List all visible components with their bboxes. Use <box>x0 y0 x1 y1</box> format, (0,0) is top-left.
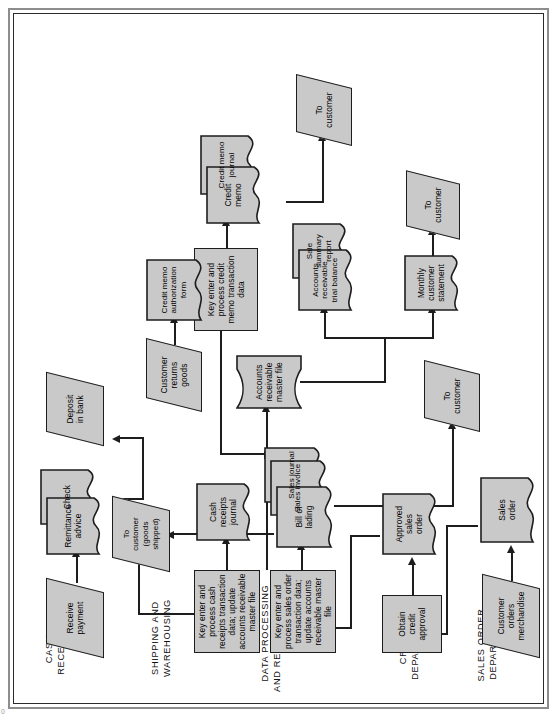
node-deposit-in-bank[interactable]: Deposit in bank <box>46 379 104 439</box>
node-obtain-credit-approval[interactable]: Obtain credit approval <box>382 595 442 653</box>
node-to-customer-goods-shipped[interactable]: To customer (goods shipped) <box>112 503 170 565</box>
node-label: Key enter and process credit memo transa… <box>206 255 246 323</box>
node-label: Key enter and process cash receipts tran… <box>197 574 257 650</box>
connector-line <box>446 525 448 635</box>
node-bill-of-lading[interactable]: Bill of lading <box>276 486 340 548</box>
node-to-customer-statement[interactable]: To customer <box>406 177 460 233</box>
node-label: Deposit in bank <box>63 392 87 425</box>
node-sales-order[interactable]: Sales order <box>480 477 542 543</box>
node-label: To customer (goods shipped) <box>120 515 162 553</box>
connector-line <box>220 453 268 455</box>
node-label: Monthly customer statement <box>416 255 454 311</box>
connector-arrow <box>112 436 120 444</box>
connector-line <box>446 525 478 527</box>
node-label: Credit memo <box>223 166 251 224</box>
connector-line <box>76 555 78 583</box>
page-mark: 0 <box>1 708 5 715</box>
connector-line <box>452 427 454 507</box>
connector-line <box>350 535 380 537</box>
connector-line <box>322 139 324 203</box>
chart-rotation-wrapper: SALES ORDER DEPARTMENT CREDIT DEPARTMENT… <box>14 14 543 703</box>
node-label: Obtain credit approval <box>397 608 427 641</box>
node-to-customer-credit-memo[interactable]: To customer <box>296 81 352 139</box>
connector-arrow <box>507 545 515 553</box>
connector-line <box>412 563 414 595</box>
node-credit-memo[interactable]: Credit memo <box>206 166 268 224</box>
node-label: Customer returns goods <box>157 354 191 395</box>
connector-line <box>174 321 176 345</box>
node-label: Accounts receivable master file <box>254 355 284 409</box>
node-to-customer-invoice[interactable]: To customer <box>424 367 480 425</box>
node-approved-sales-order[interactable]: Approved sales order <box>382 493 444 555</box>
node-label: Accounts receivable trial balance <box>311 249 348 311</box>
node-label: Receive payment <box>63 600 87 637</box>
node-label: Remittance advice <box>63 497 91 555</box>
node-label: Cash receipts journal <box>208 483 246 541</box>
connector-line <box>120 437 144 439</box>
node-label: Bill of lading <box>294 486 322 548</box>
node-key-enter-cash-receipts[interactable]: Key enter and process cash receipts tran… <box>194 570 260 653</box>
connector-line <box>324 337 434 339</box>
connector-line <box>226 542 228 570</box>
connector-line <box>511 551 513 581</box>
connector-line <box>301 548 303 570</box>
node-label: Approved sales order <box>394 493 432 555</box>
connector-line <box>432 311 434 339</box>
connector-line <box>336 627 352 629</box>
flowchart-page: 0 SALES ORDER DEPARTMENT CREDIT DEPARTME… <box>0 0 557 717</box>
connector-line <box>300 381 386 383</box>
node-receive-payment[interactable]: Receive payment <box>46 585 104 651</box>
node-key-enter-sales-order[interactable]: Key enter and process sales order transa… <box>270 570 336 653</box>
node-credit-memo-authorization-form[interactable]: Credit memo authorization form <box>146 259 210 321</box>
node-label: Customer orders merchandise <box>494 589 528 642</box>
node-label: To customer <box>312 90 336 129</box>
node-customer-orders-merchandise[interactable]: Customer orders merchandise <box>482 581 540 651</box>
node-accounts-receivable-master-file[interactable]: Accounts receivable master file <box>236 355 302 409</box>
node-remittance-advice[interactable]: Remittance advice <box>46 497 108 555</box>
connector-line <box>142 438 144 500</box>
node-label: To customer <box>440 376 464 415</box>
connector-line <box>286 201 324 203</box>
node-label: Credit memo authorization form <box>160 259 197 321</box>
node-label: To customer <box>421 185 445 224</box>
connector-line <box>324 311 326 339</box>
flowchart-canvas: SALES ORDER DEPARTMENT CREDIT DEPARTMENT… <box>14 14 543 703</box>
node-customer-returns-goods[interactable]: Customer returns goods <box>146 345 202 405</box>
node-cash-receipts-journal[interactable]: Cash receipts journal <box>196 483 258 541</box>
column-heading-shipping: SHIPPING AND WAREHOUSING <box>150 579 173 697</box>
connector-arrow <box>408 557 416 565</box>
connector-line <box>384 337 386 383</box>
node-label: Key enter and process sales order transa… <box>273 573 333 650</box>
connector-line <box>226 224 228 248</box>
connector-line <box>350 535 352 629</box>
node-label: Sales order <box>497 477 525 543</box>
node-monthly-customer-statement[interactable]: Monthly customer statement <box>404 255 466 311</box>
